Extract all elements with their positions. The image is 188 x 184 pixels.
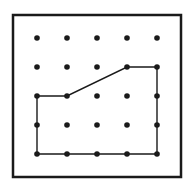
grid-dot-r2-c0 [34, 93, 40, 99]
grid-dot-r4-c2 [94, 151, 100, 157]
grid-dot-r0-c3 [124, 35, 130, 41]
grid-dot-r2-c2 [94, 93, 100, 99]
geoboard-diagram [0, 0, 188, 184]
grid-dot-r0-c2 [94, 35, 100, 41]
grid-dot-r0-c0 [34, 35, 40, 41]
grid-dot-r0-c1 [64, 35, 70, 41]
grid-dot-r3-c1 [64, 122, 70, 128]
grid-dot-r2-c3 [124, 93, 130, 99]
grid-dot-r4-c0 [34, 151, 40, 157]
grid-dot-r1-c2 [94, 64, 100, 70]
grid-dot-r4-c1 [64, 151, 70, 157]
grid-dot-r1-c4 [154, 64, 160, 70]
grid-dot-r1-c0 [34, 64, 40, 70]
grid-dot-r4-c4 [154, 151, 160, 157]
grid-dot-r1-c3 [124, 64, 130, 70]
grid-dot-r2-c4 [154, 93, 160, 99]
grid-dot-r2-c1 [64, 93, 70, 99]
grid-dot-r3-c4 [154, 122, 160, 128]
grid-dot-r1-c1 [64, 64, 70, 70]
grid-dot-r3-c0 [34, 122, 40, 128]
grid-dot-r4-c3 [124, 151, 130, 157]
polygon-shape [37, 67, 157, 154]
grid-dot-r0-c4 [154, 35, 160, 41]
grid-dot-r3-c2 [94, 122, 100, 128]
grid-dot-r3-c3 [124, 122, 130, 128]
